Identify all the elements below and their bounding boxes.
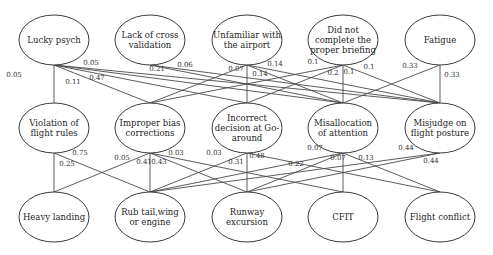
node-label: Violation of [28, 118, 79, 128]
node-label: Improper bias [120, 118, 181, 128]
node-improper_bias_corrections: Improper biascorrections [115, 103, 185, 153]
bayesian-network-diagram: Lucky psychLack of crossvalidationUnfami… [0, 0, 493, 255]
node-label: Runway [230, 207, 265, 217]
node-label: flight posture [411, 128, 469, 138]
edge-weight-label: 0.05 [114, 154, 130, 162]
node-lucky_psych: Lucky psych [19, 15, 89, 65]
node-fatigue: Fatigue [405, 15, 475, 65]
node-label: corrections [126, 128, 175, 138]
edge-weight-label: 0.06 [177, 61, 193, 69]
edge-weight-label: 0.31 [228, 158, 244, 166]
edge-weight-label: 0.14 [252, 70, 268, 78]
nodes-layer: Lucky psychLack of crossvalidationUnfami… [19, 15, 475, 242]
edge-weight-label: 0.07 [307, 144, 323, 152]
node-label: validation [128, 40, 172, 50]
node-label: complete the [315, 35, 371, 45]
node-heavy_landing: Heavy landing [19, 192, 89, 242]
edge-weight-label: 0.03 [206, 149, 222, 157]
node-label: Incorrect [227, 113, 268, 123]
node-unfamiliar_airport: Unfamiliar withthe airport [212, 15, 282, 65]
node-label: Flight conflict [410, 212, 471, 222]
node-label: decision at Go- [215, 123, 279, 133]
edge-weight-label: 0.05 [6, 71, 22, 79]
node-label: Did not [327, 25, 359, 35]
edge-weight-label: 0.48 [249, 152, 265, 160]
node-label: excursion [226, 217, 268, 227]
node-label: Unfamiliar with [213, 30, 281, 40]
node-label: Lucky psych [27, 35, 81, 45]
node-incorrect_go_around: Incorrectdecision at Go-around [212, 103, 282, 153]
node-violation_flight_rules: Violation offlight rules [19, 103, 89, 153]
edge-weight-label: 0.07 [330, 154, 346, 162]
node-rub_tail_wing_engine: Rub tail,wingor engine [115, 192, 185, 242]
node-label: of attention [318, 128, 369, 138]
node-label: Misjudge on [413, 118, 467, 128]
node-label: around [232, 133, 263, 143]
edge-weight-label: 0.1 [307, 58, 318, 66]
edge-weight-label: 0.43 [151, 158, 167, 166]
node-label: or engine [129, 217, 170, 227]
edge-weight-label: 0.22 [288, 160, 304, 168]
edge-weight-label: 0.33 [444, 71, 460, 79]
node-cfit: CFIT [308, 192, 378, 242]
node-runway_excursion: Runwayexcursion [212, 192, 282, 242]
node-label: Fatigue [424, 35, 456, 45]
node-label: proper briefing [310, 45, 376, 55]
edge-weight-label: 0.75 [72, 149, 88, 157]
edge-weight-label: 0.03 [168, 149, 184, 157]
edge-weight-label: 0.44 [398, 144, 414, 152]
edge-weight-label: 0.47 [89, 74, 105, 82]
node-label: Lack of cross [122, 30, 179, 40]
edge-weight-label: 0.13 [358, 154, 374, 162]
edge-weight-label: 0.05 [83, 59, 99, 67]
node-label: flight rules [30, 128, 77, 138]
edge-weight-label: 0.2 [327, 69, 338, 77]
node-misjudge_flight_posture: Misjudge onflight posture [405, 103, 475, 153]
edge-weight-label: 0.07 [228, 65, 244, 73]
node-lack_cross_validation: Lack of crossvalidation [115, 15, 185, 65]
node-label: Heavy landing [23, 212, 86, 222]
edge-weight-label: 0.21 [149, 65, 165, 73]
edge-weight-label: 0.41 [136, 158, 152, 166]
node-label: Rub tail,wing [121, 207, 179, 217]
edge-weight-label: 0.1 [343, 68, 354, 76]
edge-weight-label: 0.44 [423, 157, 439, 165]
edge-weight-label: 0.33 [402, 62, 418, 70]
node-label: Misallocation [314, 118, 372, 128]
edge-misjudge_flight_posture-to-rub_tail_wing_engine [150, 153, 440, 192]
edge-weight-label: 0.14 [267, 60, 283, 68]
node-flight_conflict: Flight conflict [405, 192, 475, 242]
edge-weight-label: 0.11 [65, 78, 81, 86]
edge-weight-label: 0.25 [59, 160, 75, 168]
node-label: the airport [224, 40, 271, 50]
node-label: CFIT [332, 212, 354, 222]
edge-weight-label: 0.1 [363, 63, 374, 71]
